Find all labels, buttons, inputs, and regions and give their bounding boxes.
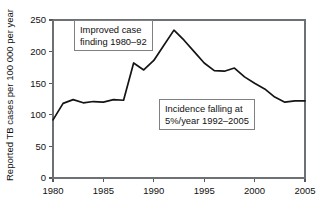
x-axis-ticks: 198019851990199520002005: [42, 178, 315, 196]
annotation-incidence-line-2: 5%/year 1992–2005: [165, 115, 249, 127]
x-tick-label: 1990: [143, 185, 164, 196]
x-tick-label: 1980: [42, 185, 63, 196]
y-tick-label: 0: [41, 172, 46, 183]
y-axis-ticks: 050100150200250: [30, 14, 53, 183]
x-tick-label: 2005: [294, 185, 315, 196]
y-tick-label: 250: [30, 14, 46, 25]
annotation-incidence-line-1: Incidence falling at: [165, 103, 249, 115]
annotation-improved-case-finding: Improved case finding 1980–92: [74, 20, 153, 51]
y-tick-label: 100: [30, 109, 46, 120]
y-tick-label: 50: [35, 141, 46, 152]
annotation-improved-line-2: finding 1980–92: [80, 36, 147, 48]
annotation-incidence-falling: Incidence falling at 5%/year 1992–2005: [159, 99, 255, 130]
x-tick-label: 1985: [93, 185, 114, 196]
y-tick-label: 150: [30, 78, 46, 89]
tb-incidence-figure: Reported TB cases per 100 000 per year 0…: [0, 0, 320, 224]
x-tick-label: 1995: [194, 185, 215, 196]
y-axis-label: Reported TB cases per 100 000 per year: [4, 9, 15, 181]
annotation-improved-line-1: Improved case: [80, 24, 147, 36]
x-tick-label: 2000: [244, 185, 265, 196]
y-tick-label: 200: [30, 46, 46, 57]
y-axis-label-text: Reported TB cases per 100 000 per year: [4, 9, 15, 181]
